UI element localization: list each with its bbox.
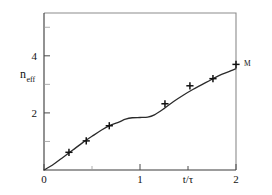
- fitted-curve-path: [44, 69, 236, 170]
- y-tick-label-2: 2: [32, 107, 38, 119]
- x-axis-label: t/τ: [183, 173, 194, 185]
- y-tick-labels: 24: [32, 50, 38, 119]
- x-axis-label-text: t/τ: [183, 173, 194, 185]
- x-tick-labels: 012: [41, 173, 239, 185]
- chart-canvas: 012 24 M t/τneff: [0, 0, 272, 195]
- axis-ticks: [44, 27, 236, 170]
- data-point-markers: [65, 61, 239, 156]
- data-point: [186, 82, 193, 89]
- data-point: [232, 61, 239, 68]
- x-tick-label-0: 0: [41, 173, 47, 185]
- annotation-M: M: [244, 59, 251, 68]
- figure-container: 012 24 M t/τneff: [0, 0, 272, 195]
- x-tick-label-1: 1: [137, 173, 143, 185]
- x-tick-label-2: 2: [233, 173, 239, 185]
- y-axis-label: neff: [20, 67, 36, 84]
- y-tick-label-4: 4: [32, 50, 38, 62]
- y-axis-label-main: n: [20, 67, 26, 81]
- frame-top-right: [44, 13, 236, 170]
- data-point: [106, 122, 113, 129]
- plot-frame: [44, 13, 236, 170]
- data-point: [209, 75, 216, 82]
- model-curve: [44, 69, 236, 170]
- chart-annotations: M: [244, 59, 251, 68]
- frame-left-bottom: [44, 13, 236, 170]
- y-axis-label-sub: eff: [27, 75, 36, 84]
